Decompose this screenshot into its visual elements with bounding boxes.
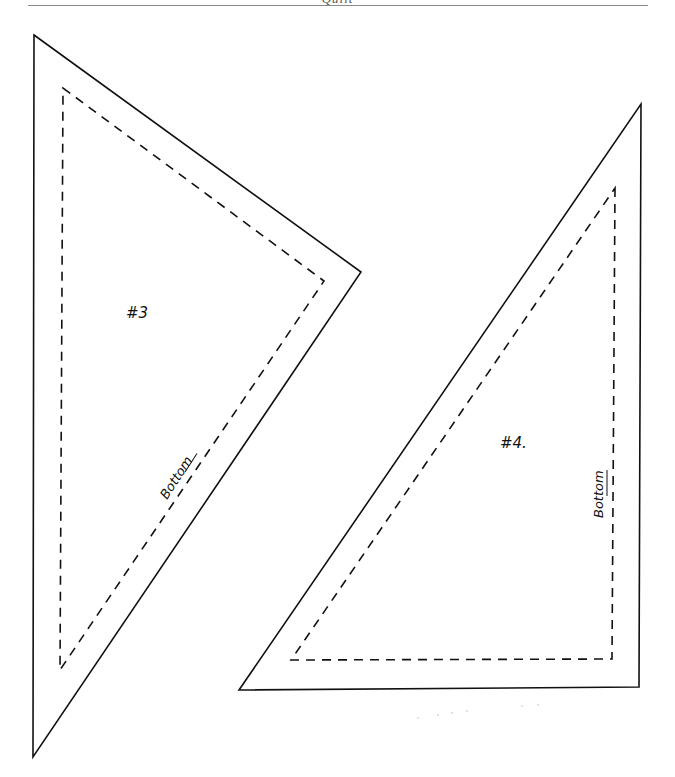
piece-3-seam-line	[60, 88, 324, 670]
piece-4-bottom-label: Bottom	[591, 470, 606, 518]
piece-3-number: #3	[126, 304, 148, 322]
quilt-pattern-sheet: #3 Bottom #4. Bottom	[0, 0, 675, 777]
piece-4-seam-line	[291, 188, 615, 660]
pattern-piece-3: #3 Bottom	[33, 35, 361, 757]
scan-specks	[417, 704, 539, 719]
piece-4-cutting-line	[239, 104, 641, 690]
piece-3-cutting-line	[33, 35, 361, 757]
pattern-piece-4: #4. Bottom	[239, 104, 641, 690]
piece-4-number: #4.	[500, 434, 527, 452]
